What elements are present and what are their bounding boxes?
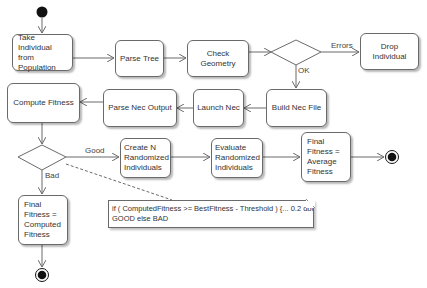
condition-note: if ( ComputedFitness >= BestFitness - Th… bbox=[108, 200, 314, 228]
action-final-fitness-computed: Final Fitness = Computed Fitness bbox=[18, 195, 68, 245]
action-launch-nec: Launch Nec bbox=[193, 89, 244, 127]
action-compute-fitness: Compute Fitness bbox=[7, 83, 80, 123]
action-parse-nec-output: Parse Nec Output bbox=[103, 89, 177, 127]
action-parse-tree: Parse Tree bbox=[115, 40, 164, 77]
decision-fitness bbox=[18, 145, 66, 170]
decision-geometry bbox=[271, 40, 321, 65]
edge-label-good: Good bbox=[85, 146, 105, 155]
note-line-2: GOOD else BAD bbox=[112, 214, 310, 224]
note-line-1: if ( ComputedFitness >= BestFitness - Th… bbox=[112, 204, 310, 214]
action-evaluate-randomized: Evaluate Randomized Individuals bbox=[211, 138, 263, 178]
action-check-geometry: Check Geometry bbox=[187, 40, 249, 77]
note-fold-corner bbox=[306, 199, 315, 208]
action-final-fitness-average: Final Fitness = Average Fitness bbox=[301, 132, 351, 182]
action-create-n-randomized: Create N Randomized Individuals bbox=[120, 138, 171, 178]
end-node-average bbox=[386, 151, 399, 164]
start-node bbox=[37, 7, 48, 18]
action-drop-individual: Drop Individual bbox=[360, 33, 419, 70]
edge-label-bad: Bad bbox=[45, 171, 59, 180]
end-node-computed bbox=[36, 269, 49, 282]
action-take-individual: Take Individual from Population bbox=[12, 34, 73, 71]
action-build-nec-file: Build Nec File bbox=[266, 89, 327, 127]
edge-label-errors: Errors bbox=[331, 41, 353, 50]
edge-label-ok: OK bbox=[298, 66, 310, 75]
